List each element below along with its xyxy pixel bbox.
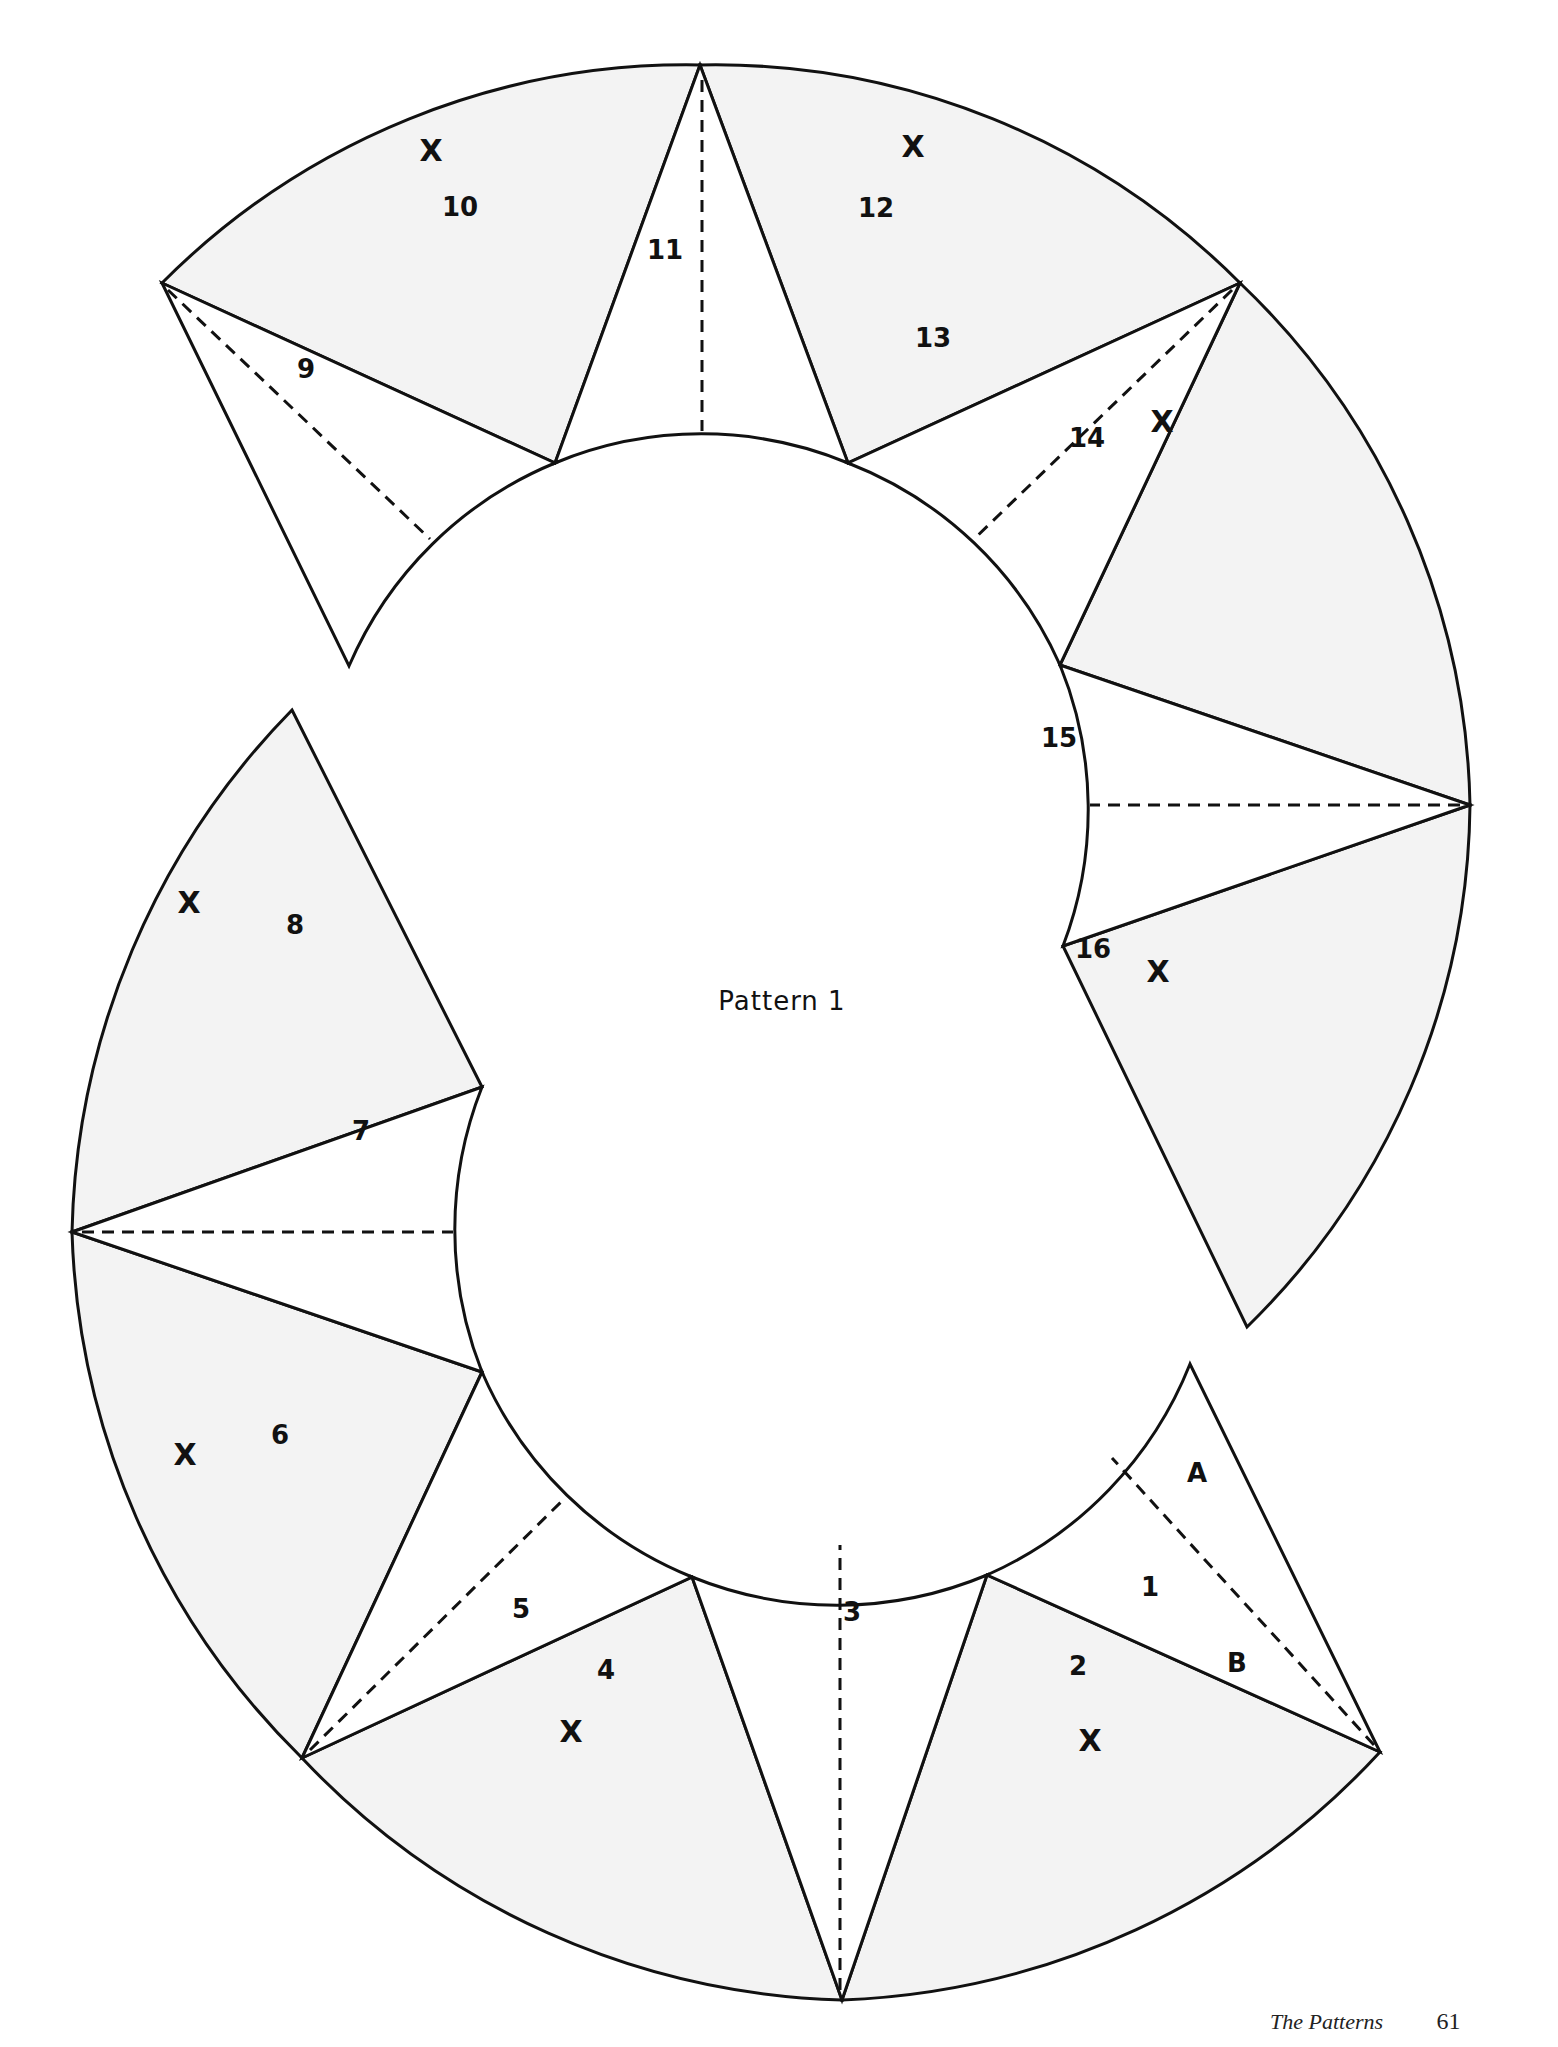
page-footer: The Patterns 61 — [1270, 2008, 1461, 2035]
piece-label-10: 10 — [442, 192, 478, 222]
piece-label-6: 6 — [271, 1420, 289, 1450]
piece-label-B: B — [1227, 1648, 1247, 1678]
piece-label-3: 3 — [843, 1597, 861, 1627]
footer-page-number: 61 — [1437, 2008, 1461, 2034]
piece-label-11: 11 — [647, 235, 683, 265]
x-mark-piece-6: X — [173, 1437, 196, 1472]
x-mark-piece-10: X — [419, 133, 442, 168]
piece-label-1: 1 — [1141, 1572, 1159, 1602]
piece-label-15: 15 — [1041, 723, 1077, 753]
quilt-pattern-diagram: 1A2XB34X56X78X910X1112X1314X1516X Patter… — [0, 0, 1558, 2047]
x-mark-piece-14: X — [1150, 404, 1173, 439]
piece-label-14: 14 — [1069, 423, 1105, 453]
piece-label-4: 4 — [597, 1655, 615, 1685]
piece-label-16: 16 — [1075, 934, 1111, 964]
piece-label-8: 8 — [286, 910, 304, 940]
piece-label-12: 12 — [858, 193, 894, 223]
piece-label-5: 5 — [512, 1594, 530, 1624]
footer-section-title: The Patterns — [1270, 2009, 1383, 2034]
x-mark-piece-8: X — [177, 885, 200, 920]
piece-label-7: 7 — [352, 1116, 370, 1146]
pattern-title: Pattern 1 — [718, 986, 845, 1016]
x-mark-piece-16: X — [1146, 954, 1169, 989]
x-mark-piece-2: X — [1078, 1723, 1101, 1758]
piece-label-9: 9 — [297, 354, 315, 384]
piece-label-A: A — [1187, 1458, 1207, 1488]
x-mark-piece-12: X — [901, 129, 924, 164]
piece-label-13: 13 — [915, 323, 951, 353]
piece-label-2: 2 — [1069, 1651, 1087, 1681]
x-mark-piece-4: X — [559, 1714, 582, 1749]
